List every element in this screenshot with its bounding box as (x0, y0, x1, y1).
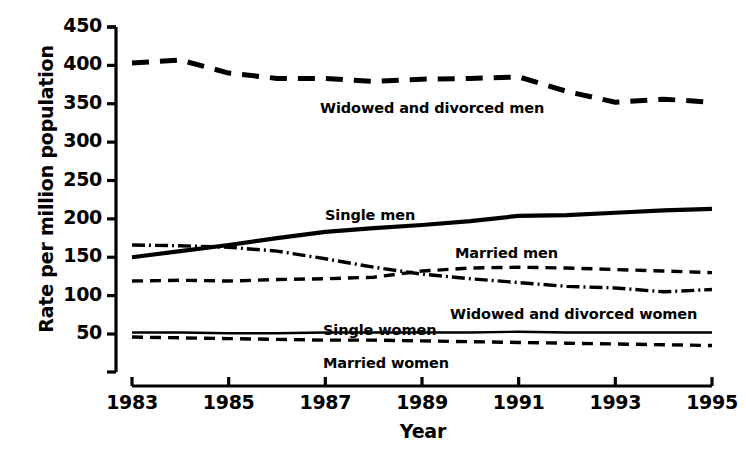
x-tick-label: 1991 (484, 391, 554, 413)
line-chart: Rate per million population Year 4504003… (0, 0, 746, 455)
y-tick-label: 50 (40, 321, 102, 343)
series-annotation: Married men (455, 245, 558, 261)
x-tick-label: 1989 (387, 391, 457, 413)
y-tick-label: 300 (40, 129, 102, 151)
series-line-married-women (132, 337, 712, 345)
series-annotation: Single women (323, 322, 436, 338)
series-annotation: Widowed and divorced women (450, 306, 697, 322)
y-tick-label: 350 (40, 91, 102, 113)
series-annotation: Single men (325, 207, 415, 223)
x-tick-label: 1993 (580, 391, 650, 413)
y-tick-label: 450 (40, 14, 102, 36)
y-tick-label: 250 (40, 168, 102, 190)
x-tick-label: 1983 (97, 391, 167, 413)
x-tick-label: 1995 (677, 391, 746, 413)
series-line-single-men (132, 209, 712, 257)
series-annotation: Married women (323, 355, 449, 371)
y-tick-label: 200 (40, 206, 102, 228)
series-line-widowed-and-divorced-men (132, 60, 712, 102)
x-axis-title: Year (400, 420, 446, 442)
y-tick-label: 400 (40, 52, 102, 74)
y-tick-label: 150 (40, 244, 102, 266)
series-line-married-men (132, 267, 712, 281)
series-annotation: Widowed and divorced men (320, 100, 544, 116)
y-tick-label: 100 (40, 283, 102, 305)
x-tick-label: 1985 (194, 391, 264, 413)
x-axis-title-wrapper: Year (133, 420, 713, 442)
plot-area (0, 0, 746, 455)
x-tick-label: 1987 (290, 391, 360, 413)
